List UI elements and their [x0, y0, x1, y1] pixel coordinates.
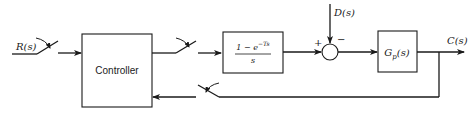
controller-output-sampler-switch-icon	[152, 38, 196, 53]
disturbance-label: D(s)	[333, 7, 355, 18]
zoh-denominator: s	[251, 56, 255, 65]
feedback-sampler-switch-icon	[198, 83, 219, 97]
plus-sign: +	[314, 37, 322, 48]
output-label: C(s)	[447, 35, 468, 46]
plant-block: Gp(s)	[378, 31, 417, 72]
controller-block: Controller	[82, 34, 152, 107]
summing-junction	[322, 44, 338, 60]
input-label: R(s)	[15, 41, 37, 52]
controller-label: Controller	[95, 65, 139, 76]
zoh-block: 1 − e−Ts s	[223, 32, 283, 73]
block-diagram: R(s) Controller 1 − e−Ts s + − D(s) Gp(	[0, 0, 472, 119]
minus-sign: −	[337, 34, 345, 45]
